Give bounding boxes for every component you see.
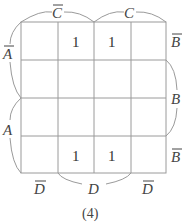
label-d: D [87,181,99,197]
top-braces [21,12,166,22]
cell-r0-c1: 1 [72,34,80,50]
label-d-bar-right: D [141,181,153,197]
label-c: C [124,5,135,21]
kmap-grid [21,22,166,173]
label-a: A [2,122,13,138]
cell-r3-c2: 1 [108,148,116,164]
label-b-bar-bottom: B [171,149,180,165]
cell-r0-c2: 1 [108,34,116,50]
label-a-bar: A [2,46,13,62]
label-c-bar: C [52,5,63,21]
karnaugh-map: C C A A B B B D D D 1 1 1 1 (4) [0,0,187,223]
label-b: B [171,91,180,107]
label-d-bar-left: D [33,181,45,197]
caption: (4) [82,206,99,222]
cell-r3-c1: 1 [72,148,80,164]
label-b-bar-top: B [171,34,180,50]
left-braces [10,22,21,173]
